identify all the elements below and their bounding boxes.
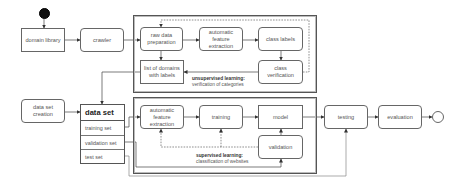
raw-data-preparation-node[interactable]: raw data preparation — [140, 27, 183, 51]
unsupervised-learning-caption: unsupervised learning: verification of c… — [192, 76, 245, 88]
model-label: model — [271, 114, 290, 121]
class-verification-node[interactable]: class verification — [258, 60, 303, 84]
unsupervised-learning-title: unsupervised learning: — [192, 76, 245, 81]
automatic-feature-extraction-top-label: automatic feature extraction — [200, 29, 242, 50]
class-labels-node[interactable]: class labels — [258, 27, 303, 51]
raw-data-preparation-label: raw data preparation — [141, 32, 182, 46]
automatic-feature-extraction-bottom-node[interactable]: automatic feature extraction — [140, 105, 184, 129]
domain-library-node[interactable]: domain library — [21, 28, 65, 52]
test-set-row[interactable]: test set — [81, 150, 124, 165]
training-set-row[interactable]: training set — [81, 121, 124, 136]
testing-node[interactable]: testing — [324, 105, 368, 129]
data-set-creation-node[interactable]: data set creation — [21, 99, 65, 123]
testing-label: testing — [336, 114, 356, 121]
training-node[interactable]: training — [199, 105, 243, 129]
evaluation-label: evaluation — [385, 114, 415, 121]
data-set-table[interactable]: data set training set validation set tes… — [80, 104, 125, 164]
start-node-icon — [39, 8, 50, 19]
crawler-label: crawler — [91, 37, 113, 44]
data-set-title: data set — [81, 105, 124, 121]
validation-label: validation — [267, 144, 295, 151]
supervised-learning-caption: supervised learning: classification of w… — [196, 153, 249, 165]
model-node[interactable]: model — [258, 105, 303, 129]
list-of-domains-label: list of domains with labels — [141, 65, 183, 79]
validation-node[interactable]: validation — [258, 135, 303, 159]
validation-set-row[interactable]: validation set — [81, 136, 124, 151]
list-of-domains-node[interactable]: list of domains with labels — [140, 60, 184, 84]
class-labels-label: class labels — [264, 36, 297, 43]
class-verification-label: class verification — [259, 65, 302, 79]
supervised-learning-title: supervised learning: — [196, 153, 243, 158]
crawler-node[interactable]: crawler — [80, 28, 124, 52]
supervised-learning-subtitle: classification of websites — [196, 159, 249, 164]
automatic-feature-extraction-top-node[interactable]: automatic feature extraction — [199, 27, 243, 51]
training-label: training — [210, 114, 232, 121]
unsupervised-learning-subtitle: verification of categories — [192, 82, 244, 87]
automatic-feature-extraction-bottom-label: automatic feature extraction — [141, 107, 183, 128]
data-set-creation-label: data set creation — [22, 104, 64, 118]
domain-library-label: domain library — [23, 37, 62, 44]
end-node-icon — [432, 111, 444, 123]
evaluation-node[interactable]: evaluation — [378, 105, 422, 129]
